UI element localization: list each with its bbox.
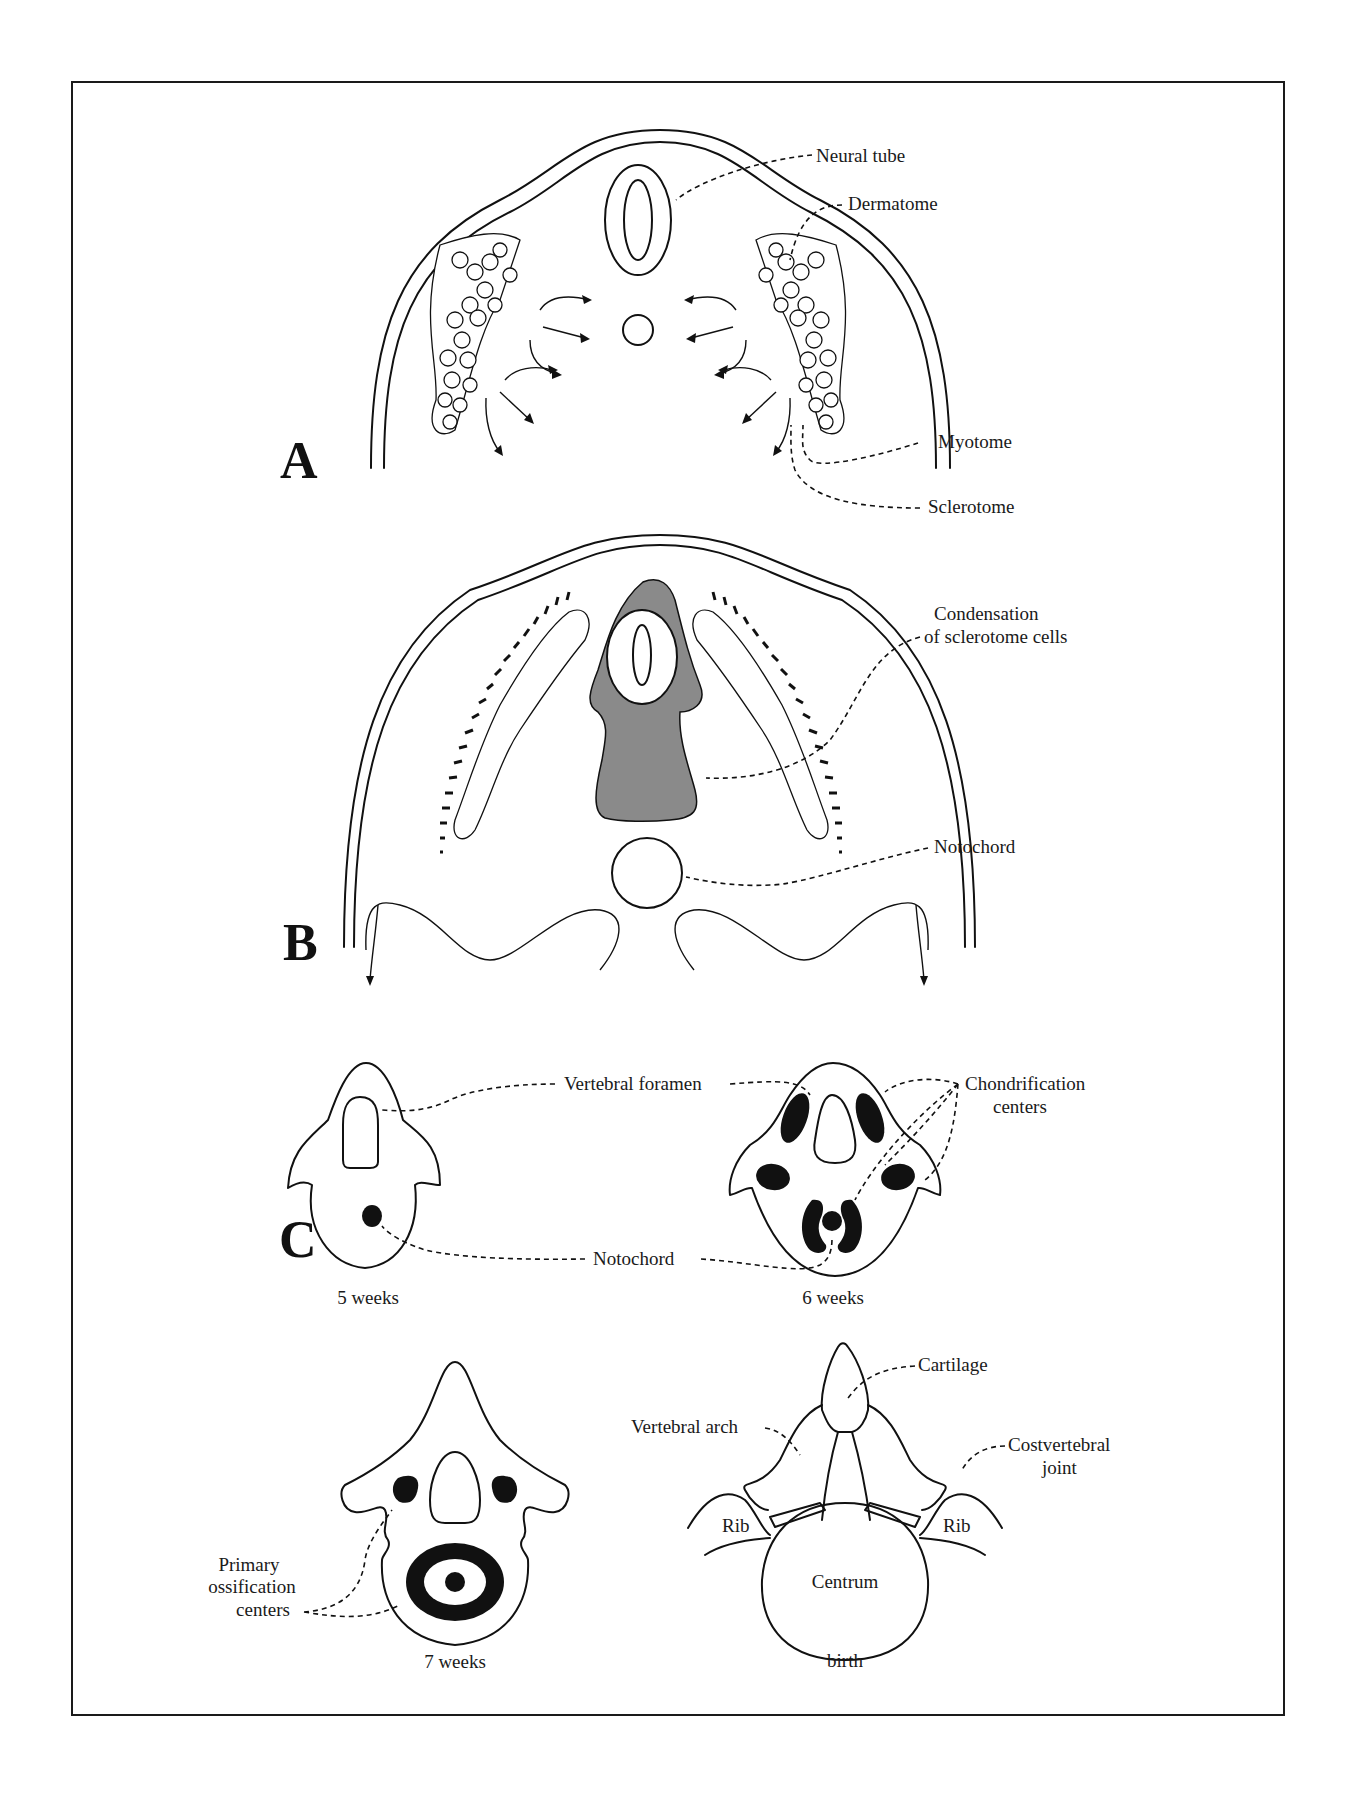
panel-b: B (283, 535, 1068, 986)
label-centrum: Centrum (812, 1571, 879, 1592)
label-chondrification-2: centers (993, 1096, 1047, 1117)
panel-c: C 5 weeks 6 weeks Vertebral foramen C (208, 1063, 1110, 1672)
label-primary-2: ossification (208, 1576, 296, 1597)
dermomyotome-right (693, 610, 828, 839)
dermomyotome-left (454, 610, 589, 839)
label-chondrification-1: Chondrification (965, 1073, 1086, 1094)
label-vertebral-foramen: Vertebral foramen (564, 1073, 702, 1094)
notochord-6w (822, 1211, 842, 1231)
label-rib-left: Rib (722, 1515, 749, 1536)
label-cartilage: Cartilage (918, 1354, 988, 1375)
leader-costvertebral (962, 1446, 1005, 1470)
leader-myotome (803, 425, 918, 463)
panel-letter-b: B (283, 914, 318, 971)
vertebra-7-weeks: 7 weeks (342, 1362, 569, 1672)
label-primary-3: centers (236, 1599, 290, 1620)
figure-frame (72, 82, 1284, 1715)
vertebra-birth: Rib Rib Centrum birth (688, 1343, 1002, 1671)
label-notochord-b: Notochord (934, 836, 1016, 857)
label-sclerotome: Sclerotome (928, 496, 1015, 517)
somite-left (430, 234, 520, 434)
vertebra-6-weeks: 6 weeks (730, 1063, 941, 1308)
leader-cartilage (848, 1366, 915, 1398)
label-myotome: Myotome (938, 431, 1012, 452)
caption-birth: birth (827, 1650, 863, 1671)
leader-sclerotome (791, 425, 920, 508)
leader-neural-tube (676, 155, 812, 200)
notochord-a (623, 315, 653, 345)
vertebra-development-figure: A (0, 0, 1353, 1802)
caption-5-weeks: 5 weeks (337, 1287, 399, 1308)
panel-a: A (280, 130, 1015, 517)
label-primary-1: Primary (218, 1554, 280, 1575)
notochord-5w (362, 1205, 382, 1227)
caption-6-weeks: 6 weeks (802, 1287, 864, 1308)
notochord-b (612, 838, 682, 908)
leader-notochord-b (686, 848, 928, 885)
somite-right (756, 234, 846, 434)
label-rib-right: Rib (943, 1515, 970, 1536)
label-notochord-c: Notochord (593, 1248, 675, 1269)
label-neural-tube: Neural tube (816, 145, 905, 166)
leader-vertebral-foramen-5w (380, 1084, 555, 1111)
caption-7-weeks: 7 weeks (424, 1651, 486, 1672)
lower-arrow-right (916, 905, 924, 980)
label-condensation-1: Condensation (934, 603, 1039, 624)
panel-letter-a: A (280, 432, 318, 489)
neural-tube-lumen (624, 180, 652, 260)
panel-letter-c: C (279, 1211, 317, 1268)
label-dermatome: Dermatome (848, 193, 938, 214)
label-costvertebral-2: joint (1041, 1457, 1078, 1478)
lower-arrow-left (370, 905, 378, 980)
label-condensation-2: of sclerotome cells (924, 626, 1068, 647)
neural-tube-lumen-b (633, 625, 651, 685)
vertebra-5-weeks: 5 weeks (288, 1063, 440, 1308)
lower-contour-right (675, 903, 928, 970)
lower-contour-left (366, 903, 619, 970)
label-costvertebral-1: Costvertebral (1008, 1434, 1110, 1455)
label-vertebral-arch: Vertebral arch (631, 1416, 739, 1437)
